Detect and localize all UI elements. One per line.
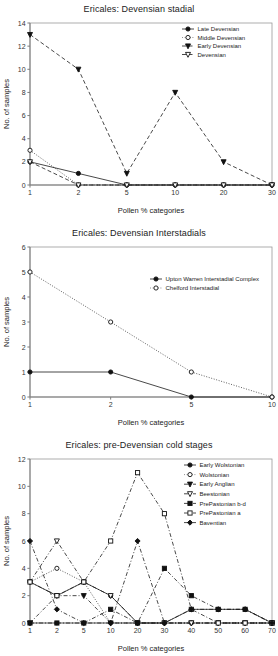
legend-label: Chelford Interstadial [166,285,220,291]
y-tick-label: 4 [22,294,26,301]
x-axis-label: Pollen % categories [118,418,185,427]
x-tick-label: 10 [171,189,179,196]
chart1-plot: 02468101214125102030Pollen % categoriesN… [0,17,278,215]
data-point-marker [109,607,113,611]
data-point-marker [135,538,140,543]
x-axis-label: Pollen % categories [118,644,185,653]
y-tick-label: 1 [22,369,26,376]
series-chelford-interstadial [28,270,274,399]
y-tick-label: 6 [22,112,26,119]
x-tick-label: 1 [28,189,32,196]
x-tick-label: 60 [241,627,249,634]
y-tick-label: 0 [22,620,26,627]
x-tick-label: 2 [76,189,80,196]
chart3-plot: 02468101212510203040506070Pollen % categ… [0,453,278,653]
y-tick-label: 2 [22,592,26,599]
series-line [30,541,272,623]
data-point-marker [221,183,226,188]
data-point-marker [186,35,190,39]
data-point-marker [188,511,192,515]
data-point-marker [55,566,59,570]
x-tick-label: 70 [268,627,276,634]
x-tick-label: 50 [214,627,222,634]
data-point-marker [186,27,190,31]
series-devensian [28,160,275,188]
data-point-marker [54,607,59,612]
chart1-title: Ericales: Devensian stadial [0,4,278,15]
data-point-marker [173,183,178,188]
data-point-marker [82,580,86,584]
data-point-marker [28,160,33,165]
data-point-marker [216,621,220,625]
series-line [30,35,272,185]
x-tick-label: 40 [187,627,195,634]
y-tick-label: 8 [22,89,26,96]
series-line [30,272,272,397]
data-point-marker [28,621,32,625]
chart3-title: Ericales: pre-Devensian cold stages [0,440,278,451]
figure-page: Ericales: Devensian stadial 024681012141… [0,0,278,656]
x-tick-label: 30 [268,189,276,196]
data-point-marker [124,171,129,176]
data-point-marker [81,594,86,599]
y-tick-label: 3 [22,319,26,326]
y-tick-label: 4 [22,135,26,142]
data-point-marker [124,183,129,188]
y-axis-label: No. of samples [2,79,11,129]
series-line [30,372,272,397]
x-tick-label: 5 [82,627,86,634]
x-tick-label: 20 [134,627,142,634]
series-beestonian [28,539,275,626]
data-point-marker [55,594,59,598]
data-point-marker [189,621,194,626]
y-tick-label: 10 [18,66,26,73]
legend-label: Wolstonian [200,472,230,478]
x-tick-label: 10 [268,401,276,408]
y-tick-label: 0 [22,394,26,401]
x-tick-label: 2 [55,627,59,634]
data-point-marker [28,270,32,274]
data-point-marker [270,183,275,188]
chart-pre-devensian-cold-stages: Ericales: pre-Devensian cold stages 0246… [0,440,278,656]
legend-label: Devensian [198,52,226,58]
data-point-marker [28,148,32,152]
x-tick-label: 1 [28,627,32,634]
data-point-marker [76,171,80,175]
y-tick-label: 6 [22,538,26,545]
y-tick-label: 12 [18,43,26,50]
data-point-marker [188,492,193,497]
data-point-marker [221,160,226,165]
data-point-marker [154,277,158,281]
legend-label: Upton Warren Interstadial Complex [166,276,259,282]
data-point-marker [186,44,191,49]
data-point-marker [162,566,166,570]
axes [30,247,272,397]
legend-label: Beestonian [200,491,230,497]
legend-label: PrePastonian a [200,510,242,516]
legend: Early WolstonianWolstonianEarly AnglianB… [184,462,246,526]
plot-frame [30,459,272,623]
plot-frame [30,247,272,397]
data-point-marker [109,539,113,543]
x-axis-label: Pollen % categories [118,206,185,215]
data-point-marker [189,594,193,598]
y-tick-label: 10 [18,483,26,490]
data-point-marker [28,370,32,374]
data-point-marker [188,501,192,505]
chart3-svg: 02468101212510203040506070Pollen % categ… [0,453,278,653]
y-tick-label: 2 [22,158,26,165]
x-tick-label: 1 [28,401,32,408]
legend-label: Late Devensian [198,26,240,32]
data-point-marker [173,90,178,95]
data-point-marker [109,370,113,374]
series-middle-devensian [28,148,274,187]
series-upton-warren-interstadial-complex [28,370,274,399]
x-tick-label: 10 [107,627,115,634]
x-tick-label: 30 [161,627,169,634]
y-axis-label: No. of samples [2,297,11,347]
series-line [30,473,272,623]
data-point-marker [55,621,59,625]
data-point-marker [28,32,33,37]
series-line [30,582,272,623]
data-point-marker [187,520,192,525]
